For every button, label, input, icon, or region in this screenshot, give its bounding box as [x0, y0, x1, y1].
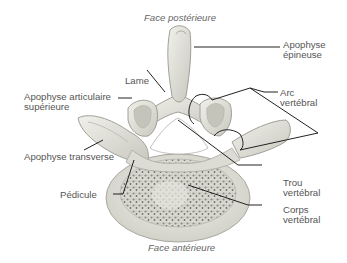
label-corps-vertebral: Corps vertébral: [283, 205, 320, 225]
label-arc-vertebral: Arc vertébral: [280, 88, 317, 108]
label-trou-vertebral: Trou vertébral: [283, 178, 320, 198]
label-apophyse-epineuse: Apophyse épineuse: [283, 40, 326, 60]
spinous-process: [168, 26, 191, 102]
label-lame: Lame: [125, 76, 149, 86]
label-apophyse-articulaire: Apophyse articulaire supérieure: [24, 92, 111, 112]
label-face-anterieure: Face antérieure: [148, 243, 215, 253]
label-pedicule: Pédicule: [60, 190, 97, 200]
label-face-posterieure: Face postérieure: [144, 13, 216, 23]
right-superior-articular-process: [200, 98, 232, 136]
left-superior-articular-process: [128, 100, 158, 136]
vertebra-diagram: Face postérieure Apophyse épineuse Lame …: [0, 0, 347, 263]
right-transverse-process: [232, 120, 290, 158]
label-apophyse-transverse: Apophyse transverse: [24, 152, 114, 162]
